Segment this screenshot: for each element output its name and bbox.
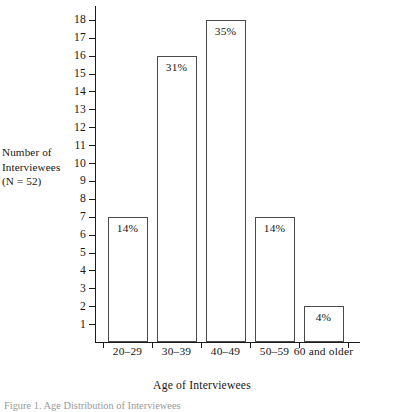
y-tick-12: 12 [89, 127, 95, 128]
y-tick-8: 8 [89, 199, 95, 200]
x-label-60-and-older: 60 and older [291, 345, 356, 358]
y-tick-16: 16 [89, 56, 95, 57]
y-tick-1: 1 [89, 324, 95, 325]
y-tick-label-11: 11 [74, 140, 86, 152]
y-tick-label-16: 16 [74, 50, 86, 62]
y-axis-line [95, 6, 96, 343]
bar-percent-label: 31% [158, 62, 196, 73]
bar-50-59: 14% [255, 217, 295, 342]
y-tick-13: 13 [89, 109, 95, 110]
y-axis-title-line-2: Interviewees [2, 160, 74, 175]
y-tick-label-2: 2 [80, 301, 86, 313]
y-tick-10: 10 [89, 163, 95, 164]
bar-percent-label: 35% [207, 26, 245, 37]
y-tick-9: 9 [89, 181, 95, 182]
y-tick-label-8: 8 [80, 194, 86, 206]
y-tick-4: 4 [89, 270, 95, 271]
x-axis-title: Age of Interviewees [0, 379, 404, 392]
y-tick-6: 6 [89, 235, 95, 236]
y-tick-label-1: 1 [80, 319, 86, 331]
bar-30-39: 31% [157, 56, 197, 342]
y-tick-7: 7 [89, 217, 95, 218]
x-axis-line [95, 342, 360, 343]
y-tick-label-5: 5 [80, 247, 86, 259]
y-tick-label-15: 15 [74, 68, 86, 80]
bar-60-and-older: 4% [304, 306, 344, 342]
y-tick-5: 5 [89, 253, 95, 254]
bar-40-49: 35% [206, 20, 246, 342]
y-tick-14: 14 [89, 91, 95, 92]
y-tick-label-12: 12 [74, 122, 86, 134]
y-axis-title: Number of Interviewees (N = 52) [2, 145, 74, 189]
y-tick-11: 11 [89, 145, 95, 146]
y-axis-title-line-3: (N = 52) [2, 174, 74, 189]
bar-percent-label: 4% [305, 312, 343, 323]
y-tick-2: 2 [89, 306, 95, 307]
y-tick-label-17: 17 [74, 32, 86, 44]
plot-area: 181716151413121110987654321 14%31%35%14%… [95, 6, 360, 343]
y-tick-label-13: 13 [74, 104, 86, 116]
bar-percent-label: 14% [256, 223, 294, 234]
figure-caption: Figure 1. Age Distribution of Interviewe… [4, 400, 304, 412]
y-tick-15: 15 [89, 74, 95, 75]
y-tick-label-10: 10 [74, 158, 86, 170]
y-tick-17: 17 [89, 38, 95, 39]
y-tick-label-18: 18 [74, 15, 86, 27]
y-tick-18: 18 [89, 20, 95, 21]
y-tick-3: 3 [89, 288, 95, 289]
bar-20-29: 14% [108, 217, 148, 342]
y-tick-label-14: 14 [74, 86, 86, 98]
y-tick-label-4: 4 [80, 265, 86, 277]
y-axis-title-line-1: Number of [2, 145, 74, 160]
y-tick-label-9: 9 [80, 176, 86, 188]
y-tick-label-7: 7 [80, 211, 86, 223]
y-tick-label-6: 6 [80, 229, 86, 241]
bar-percent-label: 14% [109, 223, 147, 234]
y-tick-label-3: 3 [80, 283, 86, 295]
